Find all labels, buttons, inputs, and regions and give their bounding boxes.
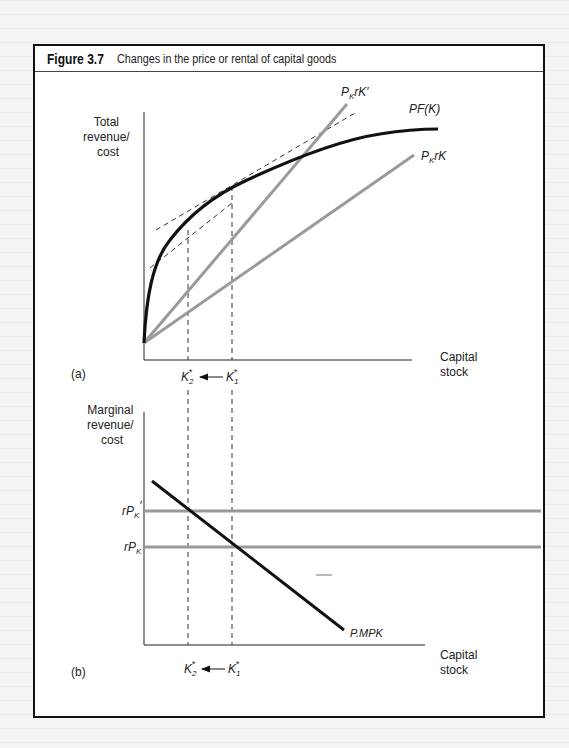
panel-b-x-label: Capital stock — [440, 648, 481, 677]
label-pkrk-prime: PKrK′ — [341, 85, 369, 101]
diagram-svg: Total revenue/ cost Capital stock (a) PF… — [0, 0, 569, 748]
label-rpk: rPK — [124, 540, 142, 556]
panel-a-tag: (a) — [71, 367, 86, 381]
panel-a-x-label: Capital stock — [440, 350, 481, 379]
svg-text:K2*: K2* — [181, 367, 194, 386]
arrow-head-icon — [201, 666, 210, 673]
label-pfk: PF(K) — [409, 102, 440, 116]
tangent-line-k2 — [150, 203, 232, 268]
svg-text:K1*: K1* — [226, 367, 238, 386]
svg-text:rPK: rPK — [124, 540, 142, 556]
panel-a: Total revenue/ cost Capital stock (a) PF… — [71, 85, 481, 386]
label-pmpk: P.MPK — [350, 627, 383, 639]
svg-text:K1*: K1* — [228, 659, 240, 678]
panel-a-k-ticks: K2* K1* — [181, 367, 238, 386]
panel-b-tag: (b) — [71, 665, 86, 679]
panel-a-y-label: Total revenue/ cost — [83, 115, 133, 159]
svg-text:PKrK′: PKrK′ — [341, 85, 369, 101]
label-rpk-prime: rPK′ — [122, 499, 142, 520]
svg-text:K2*: K2* — [184, 659, 197, 678]
panel-b: Marginal revenue/ cost Capital stock (b)… — [71, 390, 541, 679]
label-pkrk: PKrK — [421, 149, 447, 165]
svg-text:rPK′: rPK′ — [122, 499, 142, 520]
panel-b-k-ticks: K2* K1* — [184, 659, 240, 678]
arrow-head-icon — [199, 374, 208, 381]
panel-b-y-label: Marginal revenue/ cost — [87, 403, 137, 447]
mpk-line — [152, 481, 344, 630]
svg-text:PKrK: PKrK — [421, 149, 447, 165]
